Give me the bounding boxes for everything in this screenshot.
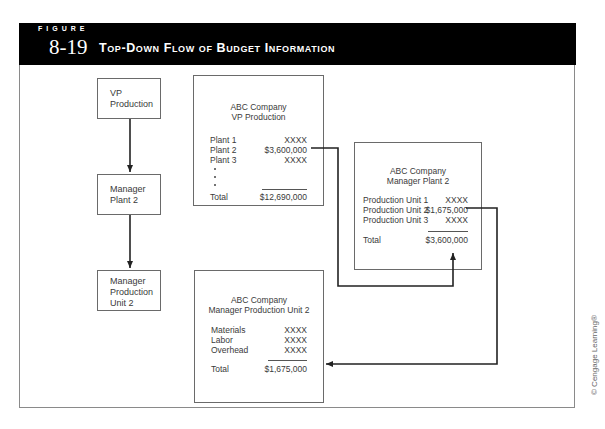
- total-rule: [268, 360, 307, 361]
- figure-title: Top-Down Flow of Budget Information: [99, 41, 335, 55]
- figure-number: 8-19: [49, 35, 88, 60]
- total-label: Total: [210, 192, 228, 202]
- row-value: XXXX: [284, 335, 307, 345]
- ellipsis-dot: [214, 168, 216, 170]
- total-value: $12,690,000: [260, 192, 307, 202]
- row-value: XXXX: [445, 215, 468, 225]
- row-value: $3,600,000: [264, 145, 307, 155]
- figure-label: FIGURE: [38, 25, 88, 32]
- copyright-credit: © Cengage Learning®: [590, 315, 599, 395]
- budget-manager-production-unit-2: ABC Company Manager Production Unit 2 Ma…: [194, 270, 324, 403]
- ellipsis-dot: [214, 184, 216, 186]
- row-label: Production Unit 2: [363, 205, 428, 215]
- row-value: XXXX: [284, 345, 307, 355]
- row-value: XXXX: [445, 195, 468, 205]
- row-label: Production Unit 1: [363, 195, 428, 205]
- role-line: Manager: [110, 184, 160, 195]
- row-value: $1,675,000: [425, 205, 468, 215]
- row-label: Overhead: [211, 345, 248, 355]
- budget-manager-plant-2: ABC Company Manager Plant 2 Production U…: [354, 142, 482, 270]
- row-label: Labor: [211, 335, 233, 345]
- ellipsis-dot: [214, 176, 216, 178]
- role-manager-plant-2: Manager Plant 2: [97, 174, 161, 215]
- role-line: Production: [110, 287, 160, 298]
- row-value: XXXX: [284, 325, 307, 335]
- total-label: Total: [363, 235, 381, 245]
- total-label: Total: [211, 364, 229, 374]
- row-label: Materials: [211, 325, 245, 335]
- role-manager-production-unit-2: Manager Production Unit 2: [97, 270, 161, 311]
- figure-header: FIGURE 8-19 Top-Down Flow of Budget Info…: [19, 23, 576, 65]
- total-rule: [262, 189, 307, 190]
- budget-vp-production: ABC Company VP Production Plant 1 XXXX P…: [193, 75, 324, 206]
- role-line: Plant 2: [110, 195, 160, 206]
- role-line: Unit 2: [110, 298, 160, 309]
- role-line: Manager: [110, 276, 160, 287]
- total-value: $1,675,000: [264, 364, 307, 374]
- role-line: VP: [110, 88, 160, 99]
- total-value: $3,600,000: [425, 235, 468, 245]
- total-rule: [428, 231, 468, 232]
- row-value: XXXX: [284, 155, 307, 165]
- role-vp-production: VP Production: [97, 78, 161, 119]
- row-label: Plant 3: [210, 155, 236, 165]
- role-line: Production: [110, 99, 160, 110]
- row-label: Production Unit 3: [363, 215, 428, 225]
- row-value: XXXX: [284, 135, 307, 145]
- row-label: Plant 1: [210, 135, 236, 145]
- row-label: Plant 2: [210, 145, 236, 155]
